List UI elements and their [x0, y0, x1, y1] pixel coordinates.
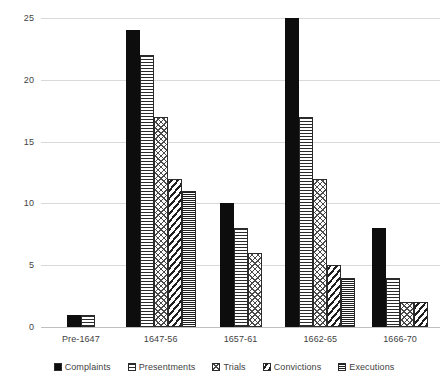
gridline-0	[41, 327, 440, 328]
legend-label-complaints: Complaints	[65, 362, 111, 372]
bar-1666-70-trials	[400, 302, 414, 327]
x-tick-label-pre-1647: Pre-1647	[62, 334, 100, 344]
legend-label-trials: Trials	[223, 362, 245, 372]
bar-1666-70-convictions	[414, 302, 428, 327]
legend-item-presentments[interactable]: Presentments	[128, 362, 196, 372]
bars-layer	[41, 18, 440, 327]
bar-group-1666-70	[41, 18, 440, 327]
legend-label-convictions: Convictions	[274, 362, 322, 372]
x-tick-label-1662-65: 1662-65	[303, 334, 337, 344]
y-tick-label-25: 25	[24, 13, 34, 23]
x-axis: Pre-16471647-561657-611662-651666-70	[41, 331, 440, 351]
x-tick-label-1657-61: 1657-61	[224, 334, 258, 344]
plot-area	[41, 18, 440, 327]
x-tick-label-1647-56: 1647-56	[144, 334, 178, 344]
legend-label-executions: Executions	[349, 362, 394, 372]
legend-swatch-trials-icon	[212, 363, 220, 371]
legend-swatch-complaints-icon	[54, 363, 62, 371]
legend-item-convictions[interactable]: Convictions	[263, 362, 322, 372]
legend-swatch-convictions-icon	[263, 363, 271, 371]
y-tick-label-10: 10	[24, 198, 34, 208]
y-axis: 0510152025	[0, 0, 41, 386]
legend-item-complaints[interactable]: Complaints	[54, 362, 111, 372]
y-tick-label-20: 20	[24, 75, 34, 85]
legend-item-trials[interactable]: Trials	[212, 362, 245, 372]
bar-chart: 0510152025 Pre-16471647-561657-611662-65…	[0, 0, 448, 386]
bar-1666-70-presentments	[386, 278, 400, 327]
y-tick-label-5: 5	[29, 260, 34, 270]
legend-label-presentments: Presentments	[139, 362, 196, 372]
legend-swatch-presentments-icon	[128, 363, 136, 371]
y-tick-label-15: 15	[24, 137, 34, 147]
bar-1666-70-complaints	[372, 228, 386, 327]
x-tick-label-1666-70: 1666-70	[383, 334, 417, 344]
legend-item-executions[interactable]: Executions	[338, 362, 394, 372]
chart-legend: ComplaintsPresentmentsTrialsConvictionsE…	[0, 362, 448, 372]
legend-swatch-executions-icon	[338, 363, 346, 371]
y-tick-label-0: 0	[29, 322, 34, 332]
